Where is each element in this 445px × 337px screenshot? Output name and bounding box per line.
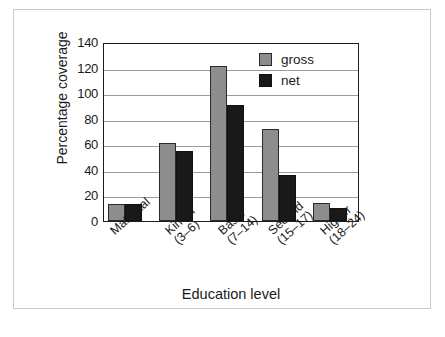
y-tick-60: 60 bbox=[84, 137, 98, 152]
legend-item-net[interactable]: net bbox=[259, 70, 349, 91]
legend-swatch-gross-icon bbox=[259, 53, 272, 66]
legend-item-gross[interactable]: gross bbox=[259, 49, 349, 70]
y-axis-title: Percentage coverage bbox=[54, 8, 70, 188]
legend-label-net: net bbox=[281, 73, 300, 88]
legend-label-gross: gross bbox=[281, 52, 314, 67]
x-axis-title: Education level bbox=[103, 286, 359, 302]
y-tick-80: 80 bbox=[84, 112, 98, 127]
y-tick-100: 100 bbox=[77, 86, 98, 101]
legend-swatch-net-icon bbox=[259, 74, 272, 87]
y-tick-20: 20 bbox=[84, 188, 98, 203]
legend: gross net bbox=[259, 49, 349, 91]
y-tick-0: 0 bbox=[91, 214, 98, 229]
y-tick-40: 40 bbox=[84, 163, 98, 178]
y-tick-140: 140 bbox=[77, 35, 98, 50]
y-tick-120: 120 bbox=[77, 61, 98, 76]
